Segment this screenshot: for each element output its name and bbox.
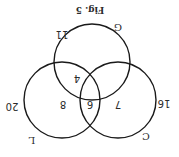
set-label-g: G (114, 22, 122, 33)
set-total-l: 20 (6, 101, 19, 112)
region-l-c: 6 (87, 99, 93, 110)
region-c-inner: 7 (115, 99, 121, 110)
set-label-c: C (142, 131, 150, 142)
set-label-l: L (28, 135, 35, 146)
region-l-inner: 8 (60, 99, 66, 110)
figure-caption: Fig. 5 (76, 5, 105, 15)
set-total-g: 11 (56, 29, 69, 40)
venn-diagram-figure: Fig. 5 G 11 20 L 16 C 4 8 6 7 (0, 0, 179, 157)
set-total-c: 16 (158, 98, 171, 109)
venn-diagram-svg: Fig. 5 G 11 20 L 16 C 4 8 6 7 (0, 0, 179, 157)
region-g-l: 4 (74, 73, 80, 84)
